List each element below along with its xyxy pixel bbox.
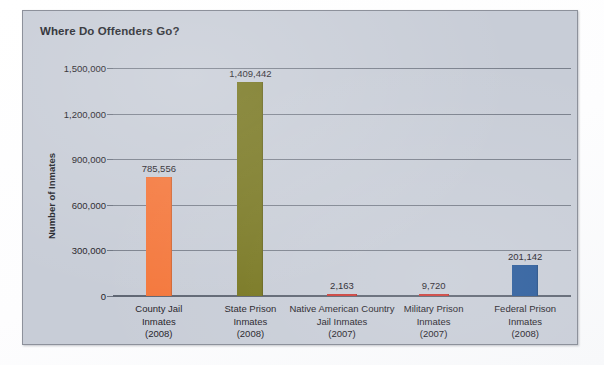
- category-label-line: Inmates: [225, 316, 277, 329]
- category-label-line: County Jail: [135, 303, 182, 316]
- bar-value-label: 2,163: [330, 280, 354, 291]
- y-axis-tick-label: 600,000: [72, 199, 106, 210]
- y-axis-tick-label: 300,000: [72, 245, 106, 256]
- bar-slot: [388, 68, 480, 296]
- bar[interactable]: [237, 82, 263, 296]
- category-label-line: Inmates: [135, 316, 182, 329]
- category-label-line: Jail Inmates: [289, 316, 394, 329]
- y-axis-tick-label: 1,500,000: [64, 63, 106, 74]
- bar-slot: [205, 68, 297, 296]
- category-label-line: (2008): [225, 328, 277, 341]
- chart-title: Where Do Offenders Go?: [40, 25, 180, 37]
- x-axis-category-label: Military PrisonInmates(2007): [404, 303, 464, 341]
- y-axis-tick-label: 0: [101, 291, 106, 302]
- category-label-line: Military Prison: [404, 303, 464, 316]
- bar[interactable]: [327, 294, 357, 296]
- category-label-line: Inmates: [494, 316, 556, 329]
- category-label-line: Inmates: [404, 316, 464, 329]
- y-axis-tick-label: 900,000: [72, 154, 106, 165]
- bar-value-label: 1,409,442: [229, 68, 271, 79]
- bar-slot: [296, 68, 388, 296]
- category-label-line: (2007): [289, 328, 394, 341]
- plot-area: 0300,000600,000900,0001,200,0001,500,000…: [113, 68, 571, 296]
- bar-value-label: 9,720: [422, 280, 446, 291]
- y-axis-tick-label: 1,200,000: [64, 108, 106, 119]
- x-axis-category-label: State PrisonInmates(2008): [225, 303, 277, 341]
- bar-value-label: 785,556: [142, 163, 176, 174]
- bar[interactable]: [146, 177, 172, 296]
- chart-panel: Where Do Offenders Go? Number of Inmates…: [22, 10, 578, 345]
- category-label-line: (2008): [494, 328, 556, 341]
- category-label-line: Native American Country: [289, 303, 394, 316]
- bar-slot: [113, 68, 205, 296]
- x-axis-category-label: County JailInmates(2008): [135, 303, 182, 341]
- bar-value-label: 201,142: [508, 251, 542, 262]
- y-axis-title: Number of Inmates: [46, 153, 57, 239]
- x-axis-category-label: Native American CountryJail Inmates(2007…: [289, 303, 394, 341]
- category-label-line: (2008): [135, 328, 182, 341]
- bar[interactable]: [419, 294, 449, 296]
- x-axis-category-label: Federal PrisonInmates(2008): [494, 303, 556, 341]
- category-label-line: Federal Prison: [494, 303, 556, 316]
- category-label-line: (2007): [404, 328, 464, 341]
- category-label-line: State Prison: [225, 303, 277, 316]
- bar[interactable]: [512, 265, 538, 296]
